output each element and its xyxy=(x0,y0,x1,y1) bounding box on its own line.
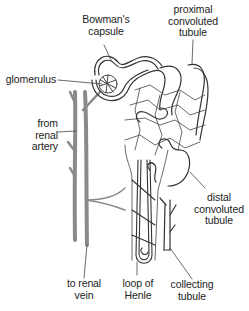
proximal-tubule xyxy=(150,64,208,140)
collecting-tubule xyxy=(160,198,176,250)
capillary-network xyxy=(125,85,205,260)
label-glomerulus: glomerulus xyxy=(2,74,60,86)
loop-of-henle xyxy=(132,160,155,263)
renal-vessels xyxy=(68,92,125,245)
label-to-renal-vein: to renal vein xyxy=(55,278,113,301)
bowmans-capsule xyxy=(92,56,162,100)
leader-lines xyxy=(58,40,205,279)
label-from-renal-artery: from renal artery xyxy=(10,118,58,153)
label-loop-of-henle: loop of Henle xyxy=(116,278,160,301)
label-bowmans-capsule: Bowman's capsule xyxy=(66,14,146,37)
nephron-illustration xyxy=(0,0,249,311)
distal-tubule xyxy=(137,108,190,186)
nephron-diagram: Bowman's capsule proximal convoluted tub… xyxy=(0,0,249,311)
label-distal-convoluted-tubule: distal convoluted tubule xyxy=(186,192,249,227)
label-collecting-tubule: collecting tubule xyxy=(160,279,224,302)
label-proximal-convoluted-tubule: proximal convoluted tubule xyxy=(158,4,228,39)
